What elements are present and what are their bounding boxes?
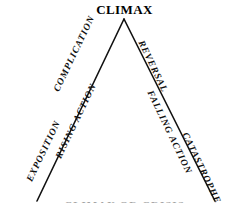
climax-label: CLIMAX <box>0 2 249 18</box>
clipped-caption-remnant: CLIMAX OR CRISIS <box>0 199 249 203</box>
diagram-canvas: CLIMAX COMPLICATION RISING ACTION EXPOSI… <box>0 0 249 203</box>
